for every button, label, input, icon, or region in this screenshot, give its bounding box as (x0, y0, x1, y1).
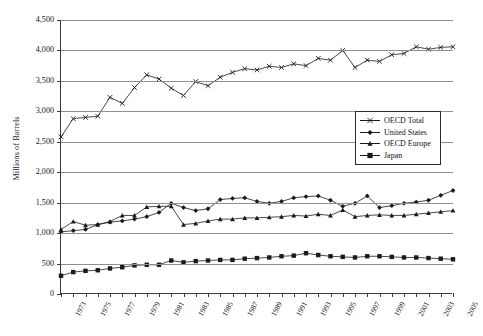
data-point-triangle (108, 219, 113, 223)
x-tick-mark (257, 293, 258, 297)
series-line (61, 190, 453, 231)
data-point-x (353, 65, 358, 70)
data-point-square (365, 254, 369, 258)
data-point-square (108, 266, 112, 270)
legend-item-united-states[interactable]: United States (359, 127, 437, 139)
data-point-x (59, 135, 64, 140)
data-point-diamond (316, 194, 321, 199)
x-tick-mark (220, 293, 221, 297)
y-tick-mark (57, 50, 61, 51)
x-tick-mark (367, 293, 368, 297)
y-tick-mark (57, 264, 61, 265)
data-point-x (218, 75, 223, 80)
data-point-square (426, 256, 430, 260)
data-point-x (108, 95, 113, 100)
x-tick-mark (416, 293, 417, 297)
data-point-diamond (291, 195, 296, 200)
y-tick-label: 2,500 (14, 137, 54, 146)
x-tick-mark (282, 293, 283, 297)
x-tick-label: 1995 (343, 300, 358, 318)
legend-marker-square-icon (359, 150, 381, 161)
gridline (61, 203, 453, 204)
data-point-diamond (83, 227, 88, 232)
legend-item-oecd-europe[interactable]: OECD Europe (359, 138, 437, 150)
data-point-diamond (120, 219, 125, 224)
legend-marker-svg (359, 127, 381, 138)
legend-label: OECD Europe (381, 139, 431, 148)
data-point-diamond (367, 130, 372, 135)
data-point-square (120, 265, 124, 269)
data-point-square (390, 255, 394, 259)
x-tick-label: 1987 (245, 300, 260, 318)
y-tick-mark (57, 172, 61, 173)
x-tick-mark (135, 293, 136, 297)
x-tick-mark (122, 293, 123, 297)
x-tick-mark (98, 293, 99, 297)
x-tick-label: 1999 (392, 300, 407, 318)
x-tick-label: 2003 (441, 300, 456, 318)
x-tick-mark (61, 293, 62, 297)
y-tick-label: 3,000 (14, 106, 54, 115)
y-tick-label: 1,500 (14, 198, 54, 207)
legend-item-oecd-total[interactable]: OECD Total (359, 115, 437, 127)
data-point-square (439, 256, 443, 260)
data-point-square (367, 153, 372, 158)
legend-marker-x-icon (359, 115, 381, 126)
x-tick-mark (355, 293, 356, 297)
x-tick-label: 1993 (318, 300, 333, 318)
data-point-diamond (451, 188, 456, 193)
legend-label: Japan (381, 151, 402, 160)
data-point-diamond (181, 205, 186, 210)
gridline (61, 20, 453, 21)
data-point-square (377, 254, 381, 258)
y-tick-mark (57, 203, 61, 204)
data-point-triangle (340, 208, 345, 212)
series-united-states (59, 188, 456, 234)
data-point-x (169, 86, 174, 91)
data-point-square (451, 257, 455, 261)
chart-legend: OECD TotalUnited StatesOECD EuropeJapan (355, 111, 441, 165)
gridline (61, 81, 453, 82)
x-tick-mark (380, 293, 381, 297)
gridline (61, 172, 453, 173)
x-tick-mark (453, 293, 454, 297)
x-tick-mark (184, 293, 185, 297)
legend-item-japan[interactable]: Japan (359, 150, 437, 162)
x-tick-mark (429, 293, 430, 297)
data-point-square (279, 254, 283, 258)
x-tick-label: 1977 (122, 300, 137, 318)
data-point-square (328, 254, 332, 258)
x-tick-mark (269, 293, 270, 297)
data-point-diamond (304, 194, 309, 199)
legend-label: United States (381, 128, 427, 137)
data-point-square (353, 255, 357, 259)
chart-container: Millions of Barrels 4,5004,0003,5003,000… (0, 0, 483, 336)
data-point-square (292, 253, 296, 257)
y-tick-label: 500 (14, 259, 54, 268)
data-point-diamond (438, 193, 443, 198)
x-tick-mark (404, 293, 405, 297)
data-point-square (341, 255, 345, 259)
data-point-square (230, 258, 234, 262)
data-point-diamond (242, 195, 247, 200)
x-tick-mark (233, 293, 234, 297)
data-point-triangle (59, 227, 64, 231)
data-point-square (206, 258, 210, 262)
x-tick-label: 2005 (465, 300, 480, 318)
x-tick-label: 1983 (196, 300, 211, 318)
data-point-diamond (193, 208, 198, 213)
data-point-square (243, 256, 247, 260)
gridline (61, 264, 453, 265)
data-point-square (267, 255, 271, 259)
data-point-square (59, 274, 63, 278)
data-point-x (144, 73, 149, 78)
data-point-x (230, 70, 235, 75)
y-tick-label: 3,500 (14, 76, 54, 85)
data-point-diamond (389, 203, 394, 208)
data-point-square (414, 255, 418, 259)
data-point-square (96, 268, 100, 272)
x-tick-mark (208, 293, 209, 297)
x-tick-label: 1973 (73, 300, 88, 318)
data-point-square (402, 255, 406, 259)
data-point-x (120, 101, 125, 106)
